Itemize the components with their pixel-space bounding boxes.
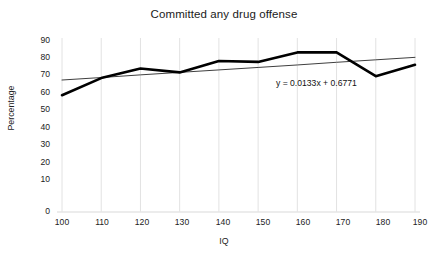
- x-axis-tick-label: 180: [363, 218, 403, 227]
- x-axis-tick-label: 160: [283, 218, 323, 227]
- x-axis-tick-label: 170: [323, 218, 363, 227]
- gridlines: [62, 38, 415, 212]
- x-axis-tick-label: 100: [42, 218, 82, 227]
- x-axis-tick-label: 110: [82, 218, 122, 227]
- x-axis-tick-label: 120: [122, 218, 162, 227]
- x-axis-title: IQ: [0, 236, 448, 246]
- trendline-equation-label: y = 0.0133x + 0.6771: [276, 78, 357, 88]
- series-line-path: [62, 52, 415, 95]
- x-axis-tick-label: 190: [400, 218, 440, 227]
- chart-container: Committed any drug offense 90 80 70 60 5…: [0, 0, 448, 258]
- y-axis-title: Percentage: [6, 73, 16, 143]
- x-axis-tick-label: 130: [162, 218, 202, 227]
- x-axis-tick-label: 140: [203, 218, 243, 227]
- x-axis-tick-label: 150: [243, 218, 283, 227]
